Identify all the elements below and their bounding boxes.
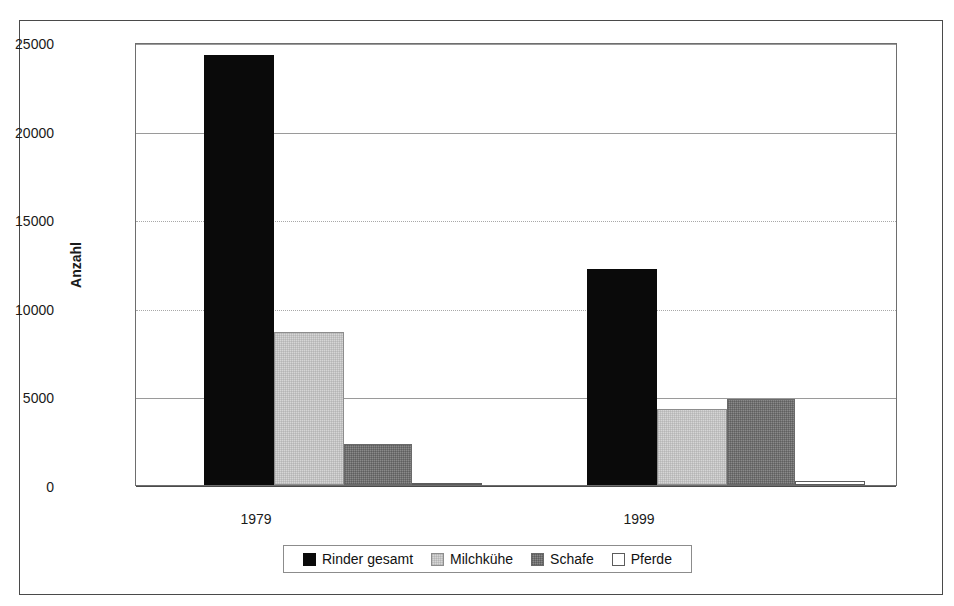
bar-1979-rinder-gesamt[interactable] — [204, 55, 274, 485]
legend-label-rinder-gesamt: Rinder gesamt — [322, 551, 413, 567]
bar-1979-milchkuehe[interactable] — [274, 332, 344, 485]
legend-item-milchkuehe[interactable]: Milchkühe — [431, 551, 513, 567]
black-square-icon — [303, 553, 316, 566]
bar-1999-pferde[interactable] — [795, 481, 865, 485]
y-tick-label-20000: 20000 — [0, 125, 54, 141]
y-tick-label-10000: 10000 — [0, 302, 54, 318]
legend-label-schafe: Schafe — [550, 551, 594, 567]
bar-1999-rinder-gesamt[interactable] — [587, 269, 657, 485]
plot-area — [135, 43, 897, 486]
light-gray-square-icon — [431, 553, 444, 566]
legend-item-rinder-gesamt[interactable]: Rinder gesamt — [303, 551, 413, 567]
white-square-icon — [612, 553, 625, 566]
y-tick-label-5000: 5000 — [0, 390, 54, 406]
x-tick-label-1979: 1979 — [196, 511, 316, 527]
y-tick-label-25000: 25000 — [0, 36, 54, 52]
chart-screenshot: Anzahl 25000 20000 15000 10000 5000 0 — [0, 0, 954, 606]
chart-legend: Rinder gesamt Milchkühe Schafe Pferde — [283, 545, 692, 573]
y-tick-label-15000: 15000 — [0, 213, 54, 229]
y-axis-title: Anzahl — [68, 205, 84, 325]
dark-gray-square-icon — [531, 553, 544, 566]
legend-label-pferde: Pferde — [631, 551, 672, 567]
bar-1979-pferde[interactable] — [412, 483, 482, 485]
bar-1999-schafe[interactable] — [727, 399, 795, 485]
legend-item-schafe[interactable]: Schafe — [531, 551, 594, 567]
legend-item-pferde[interactable]: Pferde — [612, 551, 672, 567]
legend-label-milchkuehe: Milchkühe — [450, 551, 513, 567]
gridline-0 — [136, 486, 896, 487]
figure-frame: Anzahl 25000 20000 15000 10000 5000 0 — [19, 20, 943, 595]
bar-1999-milchkuehe[interactable] — [657, 409, 727, 485]
y-tick-label-0: 0 — [0, 479, 54, 495]
bar-1979-schafe[interactable] — [344, 444, 412, 485]
gridline-25000 — [136, 44, 896, 45]
x-tick-label-1999: 1999 — [579, 511, 699, 527]
